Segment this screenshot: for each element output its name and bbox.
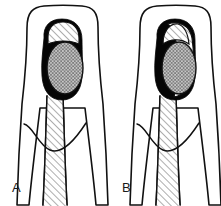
panel-a: A <box>12 5 108 206</box>
pulp-core-crosshatch-a <box>47 42 83 94</box>
pulp-core-crosshatch-b <box>162 42 196 94</box>
coronal-hatch-a <box>48 22 79 44</box>
panel-label-a: A <box>12 180 21 195</box>
figure-container: A B <box>0 0 221 206</box>
dental-illustration-svg: A B <box>0 0 221 206</box>
panel-b: B <box>122 5 221 206</box>
panel-label-b: B <box>122 180 131 195</box>
